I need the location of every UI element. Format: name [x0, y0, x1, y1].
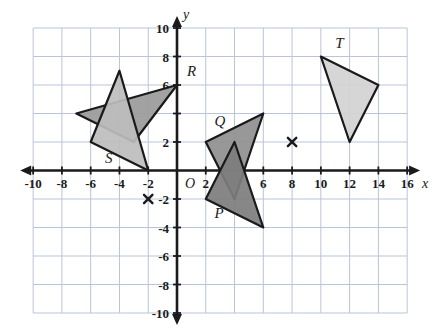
origin-label: O — [185, 176, 195, 191]
x-axis-tick-label: -6 — [85, 176, 96, 191]
y-axis-tick-label: -6 — [158, 249, 169, 264]
y-axis-arrow-up — [172, 16, 182, 27]
polygon-label-r: R — [186, 63, 196, 79]
x-axis-arrow-right — [409, 166, 420, 176]
x-axis-tick-label: -4 — [114, 176, 125, 191]
x-axis-tick-label: -8 — [56, 176, 67, 191]
x-axis-tick-label: 2 — [203, 176, 210, 191]
x-axis-tick-label: 14 — [372, 176, 386, 191]
x-axis-tick-label: -10 — [24, 176, 41, 191]
y-axis-tick-label: -4 — [158, 221, 169, 236]
y-axis-tick-label: -10 — [152, 306, 169, 321]
x-axis-tick-label: 10 — [314, 176, 327, 191]
x-axis-name: x — [421, 176, 429, 191]
coordinate-plot: -10-8-6-4-22681012141610862-2-4-6-8-10O … — [0, 0, 441, 331]
polygon-label-s: S — [105, 150, 113, 166]
y-axis-tick-label: 8 — [163, 50, 170, 65]
y-axis-tick-label: -2 — [158, 192, 169, 207]
polygon-label-q: Q — [214, 113, 225, 129]
polygon-label-p: P — [213, 205, 223, 221]
x-axis-tick-label: 8 — [289, 176, 296, 191]
y-axis-tick-label: 2 — [163, 135, 170, 150]
y-axis-tick-label: 10 — [156, 21, 169, 36]
coordinate-plane-figure: -10-8-6-4-22681012141610862-2-4-6-8-10O … — [0, 0, 441, 331]
x-axis-arrow-left — [20, 166, 31, 176]
x-axis-tick-label: 12 — [343, 176, 356, 191]
polygon-label-t: T — [335, 35, 345, 51]
y-axis-tick-label: -8 — [158, 278, 169, 293]
x-axis-tick-label: 16 — [401, 176, 415, 191]
y-axis-name: y — [181, 7, 190, 22]
x-axis-tick-label: -2 — [143, 176, 154, 191]
x-axis-tick-label: 6 — [260, 176, 267, 191]
y-axis-arrow-down — [172, 314, 182, 325]
